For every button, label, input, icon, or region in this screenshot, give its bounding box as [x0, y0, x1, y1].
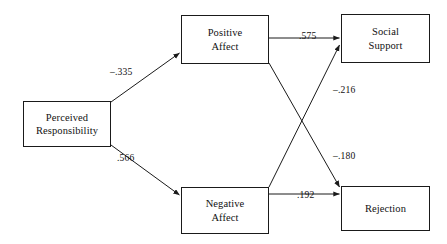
path-diagram: Perceived Responsibility Positive Affect…: [0, 0, 447, 244]
path-coefficient-negative-affect-to-rejection: .192: [297, 189, 314, 200]
node-positive-affect: Positive Affect: [181, 15, 269, 64]
path-coefficient-negative-affect-to-social-support: –.216: [333, 84, 355, 95]
path-coefficient-positive-affect-to-social-support: .575: [299, 30, 316, 41]
arrow-positive-affect-to-rejection: [269, 63, 340, 187]
node-label-negative-affect: Negative Affect: [204, 197, 247, 223]
node-label-perceived-responsibility: Perceived Responsibility: [34, 111, 100, 137]
node-rejection: Rejection: [341, 186, 430, 231]
node-social-support: Social Support: [341, 14, 430, 63]
path-coefficient-pr-to-positive-affect: –.335: [110, 66, 132, 77]
node-label-rejection: Rejection: [363, 202, 408, 215]
arrow-pr-to-positive-affect: [111, 53, 180, 102]
arrow-negative-affect-to-social-support: [269, 45, 340, 187]
node-perceived-responsibility: Perceived Responsibility: [23, 101, 111, 147]
node-label-social-support: Social Support: [367, 25, 405, 51]
node-label-positive-affect: Positive Affect: [206, 26, 245, 52]
node-negative-affect: Negative Affect: [181, 187, 269, 234]
path-coefficient-positive-affect-to-rejection: –.180: [333, 150, 355, 161]
path-coefficient-pr-to-negative-affect: .566: [117, 152, 134, 163]
